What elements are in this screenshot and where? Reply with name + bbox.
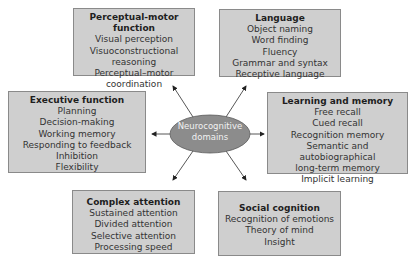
domain-item: Divided attention (73, 219, 194, 230)
center-label: Neurocognitive domains (170, 121, 250, 143)
domain-title: Executive function (9, 95, 145, 106)
domain-item: Grammar and syntax (220, 58, 340, 69)
domain-item: Visual perception (74, 34, 194, 45)
domain-item: Theory of mind (219, 225, 340, 236)
domain-box-learning-memory: Learning and memory Free recall Cued rec… (267, 92, 408, 174)
domain-title: Learning and memory (268, 96, 407, 107)
domain-box-social-cognition: Social cognition Recognition of emotions… (218, 191, 341, 256)
domain-item: coordination (74, 79, 194, 90)
domain-item: Selective attention (73, 231, 194, 242)
domain-item: Implicit learning (268, 174, 407, 185)
domain-item: Insight (219, 237, 340, 248)
domain-box-complex-attention: Complex attention Sustained attention Di… (72, 190, 195, 254)
arrow-to-complex-attention (173, 151, 193, 180)
domain-item: Cued recall (268, 118, 407, 129)
domain-item: Free recall (268, 107, 407, 118)
domain-item: long-term memory (268, 163, 407, 174)
domain-box-perceptual-motor: Perceptual-motor function Visual percept… (73, 8, 195, 76)
domain-item: Responding to feedback (9, 140, 145, 151)
arrow-to-language (226, 86, 246, 117)
domain-title: Complex attention (73, 197, 194, 208)
domain-item: Working memory (9, 129, 145, 140)
domain-item: Semantic and autobiographical (268, 141, 407, 163)
domain-box-language: Language Object naming Word finding Flue… (219, 9, 341, 77)
arrow-to-social-cognition (226, 151, 246, 180)
domain-item: Fluency (220, 47, 340, 58)
domain-item: Processing speed (73, 242, 194, 253)
domain-title: Language (220, 13, 340, 24)
domain-item: Perceptual–motor (74, 68, 194, 79)
domain-item: Inhibition (9, 151, 145, 162)
domain-item: Flexibility (9, 162, 145, 173)
domain-title: Social cognition (219, 203, 340, 214)
domain-item: Receptive language (220, 69, 340, 80)
center-label-line2: domains (170, 132, 250, 143)
domain-item: Object naming (220, 24, 340, 35)
domain-title: Perceptual-motor function (74, 12, 194, 34)
domain-item: Word finding (220, 35, 340, 46)
domain-item: Recognition memory (268, 130, 407, 141)
arrow-to-perceptual-motor (173, 86, 193, 117)
domain-item: reasoning (74, 57, 194, 68)
domain-item: Decision-making (9, 117, 145, 128)
center-label-line1: Neurocognitive (170, 121, 250, 132)
domain-box-executive: Executive function Planning Decision-mak… (8, 91, 146, 173)
domain-item: Sustained attention (73, 208, 194, 219)
domain-item: Visuoconstructional (74, 46, 194, 57)
domain-item: Recognition of emotions (219, 214, 340, 225)
domain-item: Planning (9, 106, 145, 117)
